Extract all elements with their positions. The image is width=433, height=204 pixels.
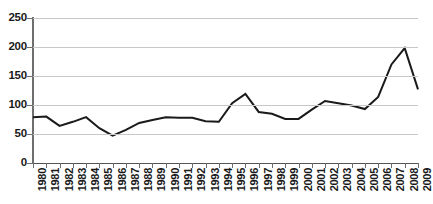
y-tick-mark-200 [27, 47, 33, 48]
data-series-line [33, 18, 418, 163]
y-tick-label-250: 250 [0, 12, 27, 24]
x-tick-label-1984: 1984 [90, 168, 101, 191]
y-tick-label-200: 200 [0, 41, 27, 53]
y-tick-mark-250 [27, 18, 33, 19]
x-tick-label-1997: 1997 [263, 168, 274, 191]
gridline-150 [33, 76, 418, 77]
y-tick-label-0: 0 [0, 157, 27, 169]
x-tick-label-1985: 1985 [103, 168, 114, 191]
x-tick-label-1980: 1980 [37, 168, 48, 191]
gridline-200 [33, 47, 418, 48]
y-tick-mark-100 [27, 105, 33, 106]
x-tick-label-1993: 1993 [210, 168, 221, 191]
y-tick-label-150: 150 [0, 70, 27, 82]
x-tick-label-2008: 2008 [409, 168, 420, 191]
x-tick-label-2004: 2004 [356, 168, 367, 191]
x-tick-label-1999: 1999 [289, 168, 300, 191]
x-tick-label-2006: 2006 [382, 168, 393, 191]
plot-area [33, 18, 418, 163]
y-tick-label-100: 100 [0, 99, 27, 111]
x-axis-tick-labels: 1980198119821983198419851986198719881989… [33, 168, 418, 204]
x-tick-label-1988: 1988 [143, 168, 154, 191]
x-tick-label-2002: 2002 [329, 168, 340, 191]
y-tick-mark-50 [27, 134, 33, 135]
x-tick-label-2003: 2003 [342, 168, 353, 191]
x-tick-label-2001: 2001 [316, 168, 327, 191]
x-tick-label-1983: 1983 [77, 168, 88, 191]
series-polyline [33, 48, 418, 136]
x-tick-label-1996: 1996 [249, 168, 260, 191]
x-tick-label-1989: 1989 [156, 168, 167, 191]
gridline-100 [33, 105, 418, 106]
y-tick-mark-150 [27, 76, 33, 77]
x-tick-label-2005: 2005 [369, 168, 380, 191]
gridline-250 [33, 18, 418, 19]
x-tick-label-1998: 1998 [276, 168, 287, 191]
x-tick-label-1981: 1981 [50, 168, 61, 191]
x-tick-label-2007: 2007 [395, 168, 406, 191]
x-tick-label-1986: 1986 [117, 168, 128, 191]
x-tick-label-1987: 1987 [130, 168, 141, 191]
y-tick-label-50: 50 [0, 128, 27, 140]
x-tick-label-1990: 1990 [170, 168, 181, 191]
x-tick-label-1991: 1991 [183, 168, 194, 191]
x-tick-label-1982: 1982 [64, 168, 75, 191]
y-tick-mark-0 [27, 163, 33, 164]
y-axis-tick-labels: 050100150200250 [0, 0, 27, 204]
x-tick-label-2009: 2009 [422, 168, 433, 191]
x-tick-label-1994: 1994 [223, 168, 234, 191]
x-tick-label-1995: 1995 [236, 168, 247, 191]
x-tick-label-1992: 1992 [196, 168, 207, 191]
gridline-50 [33, 134, 418, 135]
x-tick-label-2000: 2000 [303, 168, 314, 191]
